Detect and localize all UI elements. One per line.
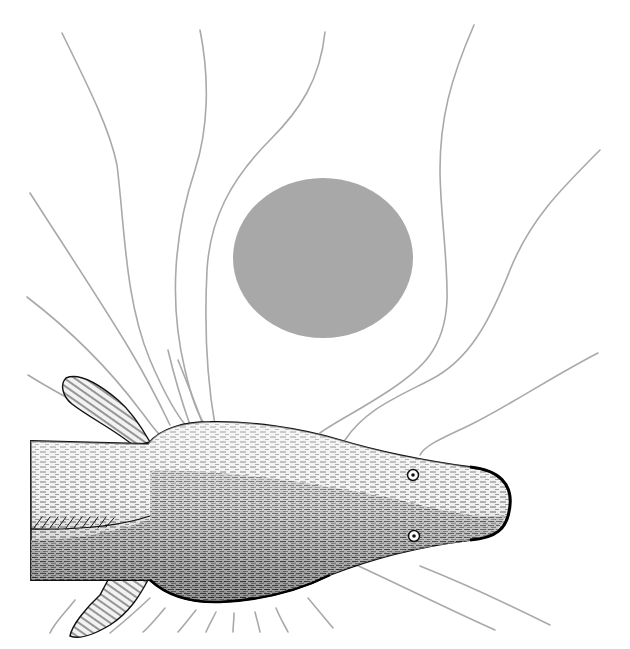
field-line bbox=[178, 360, 203, 425]
field-line bbox=[178, 610, 196, 632]
field-line bbox=[420, 353, 598, 455]
field-line bbox=[255, 612, 260, 632]
field-line bbox=[308, 598, 333, 628]
field-line bbox=[143, 608, 165, 632]
electric-fish-figure bbox=[0, 0, 630, 649]
field-line bbox=[233, 613, 234, 632]
field-line bbox=[50, 600, 75, 633]
bottom-fin bbox=[70, 580, 148, 637]
field-line bbox=[62, 33, 190, 430]
object-sphere bbox=[233, 178, 413, 338]
eye-top bbox=[408, 470, 419, 481]
field-line bbox=[352, 563, 495, 630]
field-line bbox=[206, 612, 216, 632]
fish-body bbox=[31, 422, 510, 602]
top-fin bbox=[63, 377, 150, 446]
field-line bbox=[420, 566, 550, 625]
eye-bottom bbox=[409, 531, 420, 542]
field-line bbox=[276, 608, 288, 632]
